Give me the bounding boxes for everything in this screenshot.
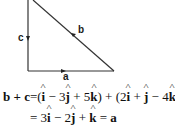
label-a: a bbox=[63, 72, 69, 82]
eq1-t1-c2: − 3 bbox=[45, 89, 65, 104]
eq2-coef-2: − 2 bbox=[51, 110, 71, 125]
eq1-t2-c2: + bbox=[130, 89, 144, 104]
eq1-lhs: b + c bbox=[3, 89, 30, 104]
equation-line-1: b + c=(i − 3j + 5k) + (2i + j − 4k) bbox=[3, 90, 175, 103]
eq2-result: a bbox=[110, 110, 117, 125]
unit-k-hat: k bbox=[90, 90, 97, 103]
eq1-plus: + bbox=[102, 89, 116, 104]
unit-i-hat: i bbox=[127, 90, 131, 103]
unit-k-hat: k bbox=[89, 111, 96, 124]
eq2-equals-2: = bbox=[96, 110, 110, 125]
eq2-plus: + bbox=[75, 110, 89, 125]
vector-c-arrowhead bbox=[26, 36, 30, 41]
unit-j-hat: j bbox=[71, 111, 75, 124]
unit-j-hat: j bbox=[144, 90, 148, 103]
label-c: c bbox=[18, 33, 24, 43]
unit-i-hat: i bbox=[42, 90, 46, 103]
vector-triangle-diagram bbox=[0, 0, 175, 128]
unit-i-hat: i bbox=[47, 111, 51, 124]
label-b: b bbox=[78, 25, 84, 35]
unit-k-hat: k bbox=[169, 90, 175, 103]
unit-j-hat: j bbox=[66, 90, 70, 103]
eq1-t2-c3: − 4 bbox=[148, 89, 168, 104]
equation-line-2: = 3i − 2j + k = a bbox=[30, 111, 117, 124]
eq1-t1-c3: + 5 bbox=[70, 89, 90, 104]
